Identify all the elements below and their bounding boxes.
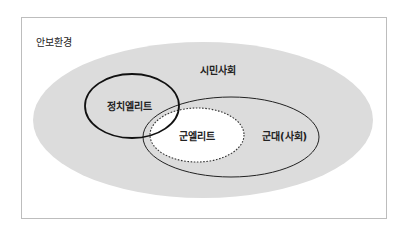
civil-society-label: 시민사회 [200,64,236,76]
military-elite-label: 군엘리트 [179,130,215,142]
venn-diagram: 안보환경 시민사회 정치엘리트 군엘리트 군대(사회) [0,0,408,236]
security-environment-title: 안보환경 [36,36,72,48]
military-society-label: 군대(사회) [262,130,307,142]
political-elite-label: 정치엘리트 [107,100,152,112]
